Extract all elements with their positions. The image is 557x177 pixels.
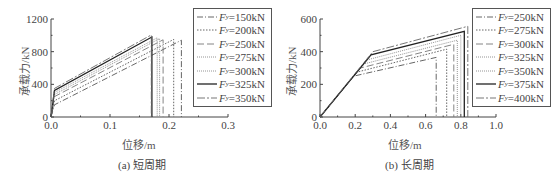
- x-tick-label: 0.2: [348, 119, 362, 131]
- y-tick-label: 1200: [26, 13, 49, 25]
- legend-line-swatch: [197, 54, 217, 60]
- x-tick-label: 0.6: [419, 119, 433, 131]
- y-axis-label-a: 承载力/kN: [16, 47, 32, 97]
- legend-line-swatch: [197, 68, 217, 74]
- legend-line-swatch: [197, 41, 217, 47]
- x-axis-label-a: 位移/m: [122, 136, 156, 152]
- legend-item: Fy=250kN: [197, 37, 268, 51]
- legend-line-swatch: [476, 95, 496, 101]
- series-line: [51, 35, 151, 117]
- legend-line-swatch: [197, 81, 217, 87]
- legend-item: Fy=275kN: [197, 51, 268, 65]
- series-line: [320, 40, 457, 117]
- legend-line-swatch: [476, 14, 496, 20]
- caption-b: (b) 长周期: [385, 156, 434, 172]
- x-tick-label: 0.1: [103, 119, 117, 131]
- y-tick-label: 600: [301, 13, 318, 25]
- legend-line-swatch: [197, 14, 217, 20]
- y-axis-label-b: 承载力/kN: [283, 47, 299, 97]
- x-tick-label: 0.4: [384, 119, 398, 131]
- x-tick-label: 1.0: [489, 119, 503, 131]
- legend-line-swatch: [476, 27, 496, 33]
- series-line: [320, 26, 468, 117]
- legend-line-swatch: [476, 81, 496, 87]
- series-line: [51, 40, 181, 117]
- x-axis-label-b: 位移/m: [388, 136, 422, 152]
- legend-line-swatch: [476, 68, 496, 74]
- y-tick-label: 400: [301, 46, 318, 58]
- legend-item: Fy=325kN: [476, 51, 547, 65]
- x-tick-label: 0.2: [162, 119, 176, 131]
- series-line: [320, 44, 454, 117]
- legend-item: Fy=400kN: [476, 91, 547, 105]
- legend-item: Fy=375kN: [476, 78, 547, 92]
- x-tick-label: 0.8: [454, 119, 468, 131]
- caption-a: (a) 短周期: [118, 156, 166, 172]
- y-tick-label: 0: [312, 111, 318, 123]
- legend-item: Fy=150kN: [197, 10, 268, 24]
- legend-line-swatch: [197, 95, 217, 101]
- y-tick-label: 800: [32, 46, 49, 58]
- legend-item: Fy=325kN: [197, 78, 268, 92]
- chart-panel-b: 0.00.20.40.60.81.00200400600 承载力/kN 位移/m…: [277, 0, 557, 177]
- legend-a: Fy=150kNFy=200kNFy=250kNFy=275kNFy=300kN…: [193, 8, 272, 107]
- legend-item: Fy=350kN: [476, 64, 547, 78]
- x-tick-label: 0.3: [221, 119, 235, 131]
- legend-item: Fy=200kN: [197, 24, 268, 38]
- y-tick-label: 400: [32, 78, 49, 90]
- y-tick-label: 0: [43, 111, 49, 123]
- y-tick-label: 200: [301, 78, 318, 90]
- series-line: [51, 38, 157, 117]
- legend-line-swatch: [476, 41, 496, 47]
- legend-line-swatch: [476, 54, 496, 60]
- legend-b: Fy=250kNFy=275kNFy=300kNFy=325kNFy=350kN…: [472, 8, 551, 107]
- legend-item: Fy=300kN: [476, 37, 547, 51]
- legend-line-swatch: [197, 27, 217, 33]
- chart-panel-a: 0.00.10.20.304008001200 承载力/kN 位移/m (a) …: [0, 0, 278, 177]
- legend-item: Fy=300kN: [197, 64, 268, 78]
- legend-item: Fy=350kN: [197, 91, 268, 105]
- series-line: [320, 57, 436, 117]
- legend-item: Fy=250kN: [476, 10, 547, 24]
- series-line: [51, 39, 174, 117]
- legend-item: Fy=275kN: [476, 24, 547, 38]
